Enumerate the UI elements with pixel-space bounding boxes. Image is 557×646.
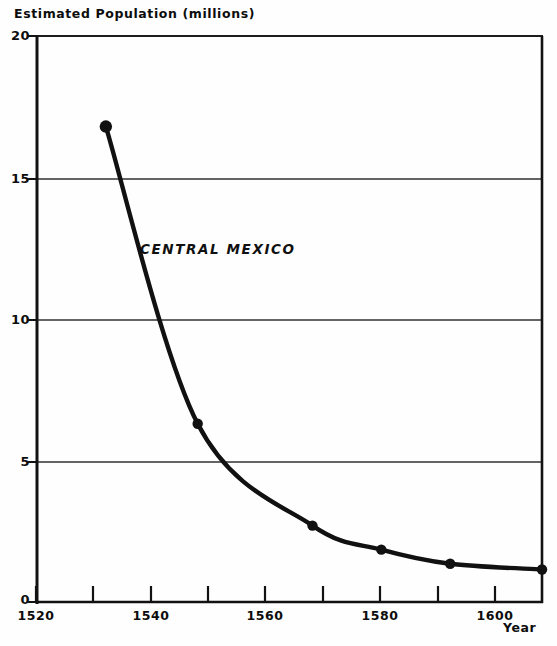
data-point: [100, 120, 112, 132]
gridlines: [36, 36, 543, 462]
series-line-central-mexico: [106, 127, 542, 570]
data-point: [537, 564, 547, 574]
x-axis-ticks: [36, 586, 495, 602]
data-point: [376, 544, 386, 554]
data-point: [445, 559, 455, 569]
data-point: [307, 520, 317, 530]
chart-figure: Estimated Population (millions) 20 15 10…: [0, 0, 557, 646]
plot-svg: [0, 0, 557, 646]
data-point: [192, 419, 202, 429]
